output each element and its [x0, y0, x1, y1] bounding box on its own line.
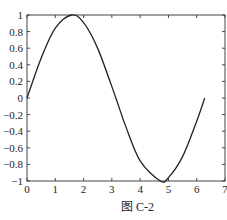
- svg-text:0.6: 0.6: [9, 42, 23, 54]
- svg-text:0: 0: [18, 92, 24, 104]
- sine-curve: [27, 15, 205, 182]
- svg-text:1: 1: [18, 9, 24, 21]
- svg-text:1: 1: [53, 183, 59, 195]
- svg-text:−0.4: −0.4: [3, 125, 23, 137]
- axes-box: [27, 15, 225, 181]
- svg-text:−0.2: −0.2: [3, 109, 23, 121]
- svg-text:4: 4: [137, 183, 143, 195]
- svg-text:2: 2: [81, 183, 87, 195]
- svg-text:0.2: 0.2: [9, 75, 23, 87]
- figure-caption: 图 C-2: [0, 197, 227, 215]
- svg-text:0.8: 0.8: [9, 26, 23, 38]
- svg-text:−1: −1: [11, 175, 23, 187]
- svg-text:7: 7: [222, 183, 227, 195]
- tick-labels: 01234567−1−0.8−0.6−0.4−0.200.20.40.60.81: [3, 9, 227, 195]
- sine-chart: 01234567−1−0.8−0.6−0.4−0.200.20.40.60.81: [0, 0, 227, 195]
- ticks: [27, 15, 225, 181]
- svg-text:3: 3: [109, 183, 115, 195]
- svg-text:0.4: 0.4: [9, 59, 23, 71]
- svg-text:0: 0: [24, 183, 30, 195]
- svg-text:5: 5: [166, 183, 172, 195]
- svg-text:6: 6: [194, 183, 200, 195]
- svg-text:−0.6: −0.6: [3, 142, 23, 154]
- svg-text:−0.8: −0.8: [3, 158, 23, 170]
